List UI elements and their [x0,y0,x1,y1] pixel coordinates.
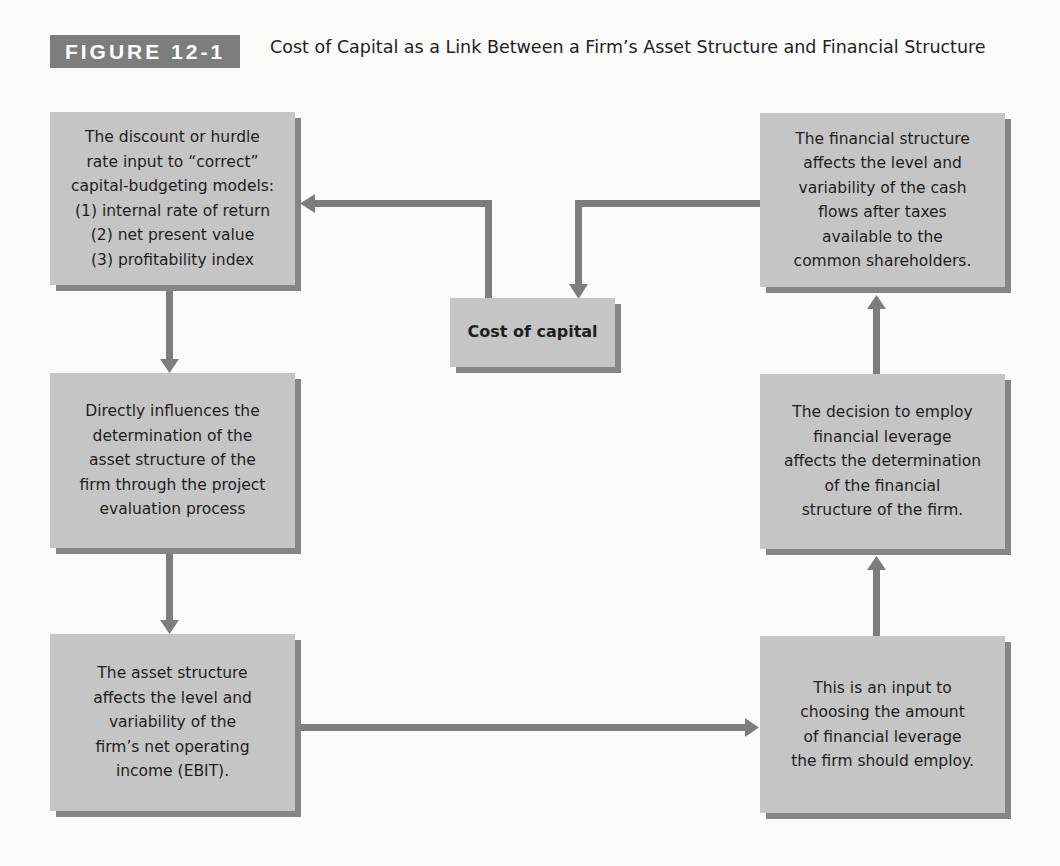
box-financial-structure-effect-text: The financial structure affects the leve… [794,127,972,274]
text-line: The financial structure [794,127,972,152]
text-line: of financial leverage [791,725,974,750]
text-line: affects the level and [794,151,972,176]
text-line: financial leverage [784,425,981,450]
text-line: variability of the cash [794,176,972,201]
arrow-leverage-input-to-decision [867,556,886,636]
text-line: Directly influences the [80,399,266,424]
box-leverage-input-text: This is an input to choosing the amount … [791,676,974,774]
box-hurdle-rate: The discount or hurdle rate input to “co… [50,112,295,285]
text-line: firm’s net operating [93,735,252,760]
text-line: of the financial [784,474,981,499]
text-line: flows after taxes [794,200,972,225]
box-hurdle-rate-text: The discount or hurdle rate input to “co… [71,125,274,272]
text-line: (1) internal rate of return [71,199,274,224]
text-line: (2) net present value [71,223,274,248]
figure-title: Cost of Capital as a Link Between a Firm… [270,36,990,58]
box-cost-of-capital: Cost of capital [450,298,615,367]
text-line: asset structure of the [80,448,266,473]
arrow-effect-to-leverage-input [301,718,759,737]
text-line: rate input to “correct” [71,150,274,175]
box-asset-structure-determination-text: Directly influences the determination of… [80,399,266,522]
arrow-decision-to-financial [867,295,886,374]
box-asset-structure-effect-text: The asset structure affects the level an… [93,661,252,784]
arrow-cost-to-hurdle [300,194,492,299]
arrow-determination-to-effect [160,554,179,634]
text-line: affects the level and [93,686,252,711]
text-line: firm through the project [80,473,266,498]
box-asset-structure-determination: Directly influences the determination of… [50,373,295,548]
text-line: (3) profitability index [71,248,274,273]
figure-label: FIGURE 12-1 [50,35,240,68]
text-line: The discount or hurdle [71,125,274,150]
text-line: The decision to employ [784,400,981,425]
text-line: the firm should employ. [791,749,974,774]
text-line: available to the [794,225,972,250]
box-leverage-decision-text: The decision to employ financial leverag… [784,400,981,523]
text-line: structure of the firm. [784,498,981,523]
cost-of-capital-label: Cost of capital [467,320,597,345]
box-leverage-input: This is an input to choosing the amount … [760,636,1005,813]
text-line: choosing the amount [791,700,974,725]
text-line: common shareholders. [794,249,972,274]
text-line: determination of the [80,424,266,449]
text-line: capital-budgeting models: [71,174,274,199]
box-asset-structure-effect: The asset structure affects the level an… [50,634,295,811]
arrow-financial-to-cost [569,200,761,299]
box-leverage-decision: The decision to employ financial leverag… [760,374,1005,549]
text-line: The asset structure [93,661,252,686]
arrow-hurdle-to-determination [160,291,179,373]
text-line: This is an input to [791,676,974,701]
text-line: variability of the [93,710,252,735]
text-line: evaluation process [80,497,266,522]
text-line: affects the determination [784,449,981,474]
box-financial-structure-effect: The financial structure affects the leve… [760,113,1005,287]
text-line: income (EBIT). [93,759,252,784]
